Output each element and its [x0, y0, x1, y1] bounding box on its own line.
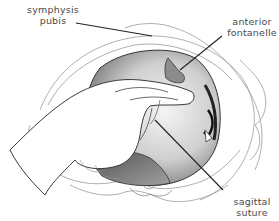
label-sagittal-suture: sagittal suture — [225, 196, 279, 218]
label-fontanelle-line2: fontanelle — [225, 27, 279, 38]
label-symphysis-line2: pubis — [26, 15, 80, 26]
label-anterior-fontanelle: anterior fontanelle — [225, 16, 279, 38]
label-symphysis-pubis: symphysis pubis — [26, 4, 80, 26]
leader-symphysis — [76, 23, 152, 36]
label-symphysis-line1: symphysis — [26, 4, 80, 15]
label-sagittal-line1: sagittal — [225, 196, 279, 207]
diagram-canvas: symphysis pubis anterior fontanelle sagi… — [0, 0, 279, 221]
label-fontanelle-line1: anterior — [225, 16, 279, 27]
label-sagittal-line2: suture — [225, 207, 279, 218]
